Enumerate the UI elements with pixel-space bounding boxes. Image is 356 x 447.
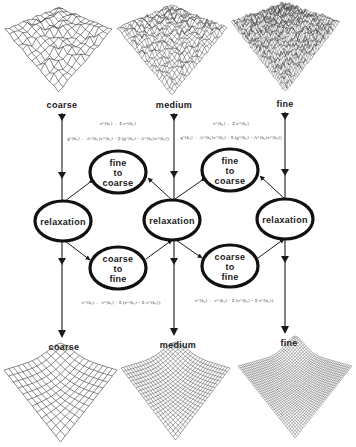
fine-to-coarse-node-1: fine to coarse	[90, 151, 146, 193]
formula-restriction-left-2: g^{h₁} ← A^{h₁}v^{h₁} + Σ (g^{h₂} − A^{h…	[67, 136, 169, 141]
relaxation-nodes: relaxation relaxation relaxation	[35, 199, 313, 241]
svg-text:to: to	[113, 264, 122, 274]
svg-text:relaxation: relaxation	[149, 216, 195, 226]
coarse-to-fine-node-2: coarse to fine	[202, 245, 258, 287]
relaxation-node-fine: relaxation	[257, 199, 313, 239]
fine-rough-surface	[231, 2, 340, 91]
relaxation-node-coarse: relaxation	[35, 201, 91, 241]
svg-text:fine: fine	[221, 272, 238, 282]
formula-restriction-right-2: g^{h₂} ← A^{h₂}v^{h₂} + Σ (g^{h₃} − A^{h…	[180, 135, 282, 140]
fine-to-coarse-node-2: fine to coarse	[202, 149, 258, 191]
svg-text:fine: fine	[109, 274, 126, 284]
svg-text:coarse: coarse	[215, 252, 246, 262]
formula-restriction-left-1: v^{h₁} ← Σ v^{h₂}	[100, 121, 136, 126]
medium-rough-surface	[117, 5, 227, 95]
coarse-smooth-surface	[4, 343, 117, 442]
svg-text:to: to	[225, 262, 234, 272]
svg-text:coarse: coarse	[215, 176, 246, 186]
top-label-fine: fine	[276, 99, 293, 109]
svg-text:fine: fine	[109, 158, 126, 168]
svg-text:fine: fine	[221, 156, 238, 166]
svg-text:relaxation: relaxation	[262, 215, 308, 225]
coarse-to-fine-node-1: coarse to fine	[90, 247, 146, 289]
formula-restriction-right-1: v^{h₂} ← Σ v^{h₃}	[213, 121, 249, 126]
svg-text:to: to	[113, 168, 122, 178]
multigrid-diagram: coarse medium fine	[0, 0, 356, 447]
medium-smooth-surface	[121, 342, 230, 440]
top-label-coarse: coarse	[47, 100, 78, 110]
fine-smooth-surface	[238, 336, 352, 438]
bottom-surfaces	[4, 336, 352, 442]
formula-prolongation-right: v^{h₃} ← v^{h₃} + Σ (v^{h₂} − Σ v^{h₃})	[195, 298, 274, 303]
relaxation-node-medium: relaxation	[144, 200, 200, 240]
top-surfaces	[5, 2, 340, 95]
svg-text:to: to	[225, 166, 234, 176]
top-label-medium: medium	[156, 100, 192, 110]
coarse-rough-surface	[5, 7, 112, 91]
formula-prolongation-left: v^{h₂} ← v^{h₂} + Σ (v^{h₁} − Σ v^{h₂})	[82, 300, 161, 305]
bottom-label-medium: medium	[160, 340, 196, 350]
svg-text:coarse: coarse	[103, 254, 134, 264]
svg-text:coarse: coarse	[103, 178, 134, 188]
svg-text:relaxation: relaxation	[40, 217, 86, 227]
